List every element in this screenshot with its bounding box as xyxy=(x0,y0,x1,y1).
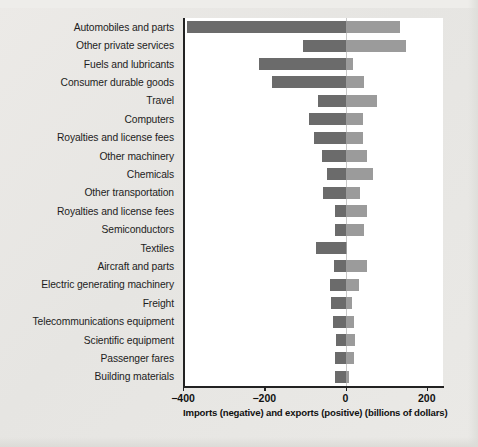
bar-imports xyxy=(335,371,346,383)
bar-imports xyxy=(334,260,345,272)
category-label: Other machinery xyxy=(99,151,174,162)
x-axis-line xyxy=(183,386,444,388)
bar-imports xyxy=(333,316,345,328)
x-tick xyxy=(183,386,184,391)
x-tick-label: −400 xyxy=(171,392,195,404)
bar-imports xyxy=(318,95,346,107)
bar-exports xyxy=(346,168,374,180)
x-tick xyxy=(427,386,428,391)
bar-imports xyxy=(335,205,345,217)
chart-figure: Automobiles and partsOther private servi… xyxy=(0,0,478,447)
bar-exports xyxy=(346,150,367,162)
bar-imports xyxy=(323,187,345,199)
category-label: Freight xyxy=(143,298,174,309)
x-tick xyxy=(346,386,347,391)
bar-exports xyxy=(346,224,365,236)
category-label: Consumer durable goods xyxy=(61,77,174,88)
y-axis-line xyxy=(183,18,185,387)
bar-imports xyxy=(322,150,346,162)
bar-imports xyxy=(327,168,345,180)
paper-edge-top xyxy=(0,0,478,8)
bar-exports xyxy=(346,334,355,346)
category-label: Other private services xyxy=(76,40,174,51)
bar-imports xyxy=(187,21,345,33)
x-axis-title: Imports (negative) and exports (positive… xyxy=(183,407,444,418)
x-tick xyxy=(264,386,265,391)
category-label: Other transportation xyxy=(84,187,174,198)
bar-exports xyxy=(346,279,359,291)
bar-imports xyxy=(331,297,345,309)
category-label: Electric generating machinery xyxy=(41,279,174,290)
bar-exports xyxy=(346,132,363,144)
bar-exports xyxy=(346,297,352,309)
category-label: Computers xyxy=(125,114,174,125)
category-label: Royalties and license fees xyxy=(57,206,174,217)
bar-exports xyxy=(346,242,347,254)
category-label: Fuels and lubricants xyxy=(84,59,174,70)
bar-imports xyxy=(259,58,345,70)
x-tick-label: 0 xyxy=(343,392,349,404)
bar-imports xyxy=(314,132,346,144)
category-label: Telecommunications equipment xyxy=(33,316,174,327)
bar-exports xyxy=(346,40,406,52)
bar-exports xyxy=(346,58,353,70)
zero-reference-line xyxy=(346,18,347,386)
bar-exports xyxy=(346,371,349,383)
category-label: Textiles xyxy=(140,243,174,254)
category-label: Royalties and license fees xyxy=(57,132,174,143)
category-label: Scientific equipment xyxy=(84,335,174,346)
bar-imports xyxy=(330,279,345,291)
bar-imports xyxy=(335,224,346,236)
category-label: Semiconductors xyxy=(102,224,174,235)
bar-imports xyxy=(309,113,346,125)
bar-imports xyxy=(272,76,346,88)
bar-imports xyxy=(336,334,345,346)
paper-edge-bottom xyxy=(0,437,478,447)
category-label: Automobiles and parts xyxy=(74,22,174,33)
bar-exports xyxy=(346,352,354,364)
category-label: Chemicals xyxy=(127,169,174,180)
bar-imports xyxy=(316,242,345,254)
bar-exports xyxy=(346,187,361,199)
plot-area xyxy=(183,18,443,386)
bar-exports xyxy=(346,316,355,328)
category-label: Passenger fares xyxy=(101,353,174,364)
paper-edge-right xyxy=(468,0,478,447)
bar-exports xyxy=(346,113,363,125)
bar-exports xyxy=(346,95,378,107)
bar-exports xyxy=(346,76,365,88)
bar-imports xyxy=(335,352,345,364)
bar-exports xyxy=(346,260,368,272)
bar-exports xyxy=(346,21,400,33)
category-label: Travel xyxy=(146,95,174,106)
category-label: Building materials xyxy=(95,371,174,382)
category-label-column: Automobiles and partsOther private servi… xyxy=(6,18,178,386)
bar-imports xyxy=(303,40,346,52)
bar-exports xyxy=(346,205,367,217)
x-tick-label: 200 xyxy=(418,392,436,404)
category-label: Aircraft and parts xyxy=(97,261,174,272)
x-tick-label: −200 xyxy=(252,392,276,404)
